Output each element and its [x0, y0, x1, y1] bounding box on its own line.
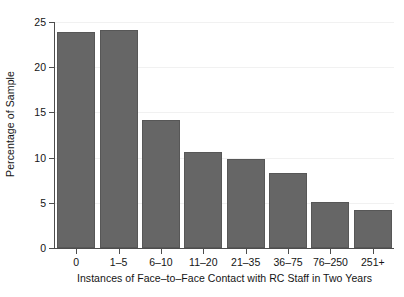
gridline — [55, 22, 394, 23]
x-tick-label: 6–10 — [149, 256, 172, 269]
x-tick-label: 36–75 — [273, 256, 302, 269]
y-tick-label: 25 — [24, 17, 46, 28]
y-tick-label: 10 — [24, 152, 46, 163]
x-axis-title: Instances of Face–to–Face Contact with R… — [55, 272, 394, 284]
x-tick-label: 76–250 — [313, 256, 348, 269]
bar — [311, 202, 349, 248]
y-tick-label: 20 — [24, 62, 46, 73]
x-tick-label: 21–35 — [231, 256, 260, 269]
x-axis-tick-marks — [55, 249, 394, 255]
bar — [100, 30, 138, 248]
x-tick-mark — [76, 249, 77, 254]
bar-chart-figure: Percentage of Sample 0510152025 01–56–10… — [0, 0, 404, 297]
bar — [184, 152, 222, 248]
x-tick-mark — [330, 249, 331, 254]
x-tick-mark — [288, 249, 289, 254]
bar — [269, 173, 307, 248]
x-tick-mark — [119, 249, 120, 254]
x-tick-label: 251+ — [361, 256, 385, 269]
x-tick-label: 11–20 — [189, 256, 217, 269]
y-tick-label: 15 — [24, 107, 46, 118]
y-tick-label: 0 — [24, 243, 46, 254]
x-tick-mark — [246, 249, 247, 254]
bar — [142, 120, 180, 248]
x-tick-mark — [373, 249, 374, 254]
x-tick-label: 0 — [73, 256, 79, 269]
y-axis-tick-labels: 0510152025 — [22, 0, 46, 297]
x-tick-mark — [161, 249, 162, 254]
y-axis-title: Percentage of Sample — [0, 0, 20, 248]
bar — [354, 210, 392, 248]
x-axis-tick-labels: 01–56–1011–2021–3536–7576–250251+ — [55, 256, 394, 270]
x-tick-mark — [203, 249, 204, 254]
bar — [57, 32, 95, 248]
y-tick-label: 5 — [24, 198, 46, 209]
plot-area — [55, 20, 394, 248]
bar — [227, 159, 265, 248]
x-tick-label: 1–5 — [110, 256, 128, 269]
